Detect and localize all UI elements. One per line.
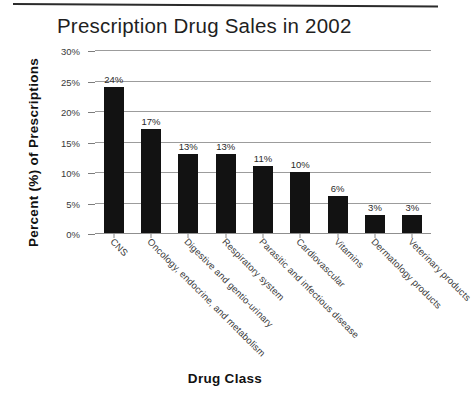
y-tick-label: 25% [61,76,80,87]
bar-group: 11% [244,50,281,233]
bar-value-label: 6% [331,183,345,194]
bar[interactable] [365,215,385,233]
bar-group: 17% [132,50,169,233]
bar-value-label: 3% [405,202,419,213]
y-tick-mark [88,112,95,113]
page-top-rule [13,3,438,8]
x-category-label: CNS [108,236,130,258]
chart-title: Prescription Drug Sales in 2002 [57,14,352,38]
bar-value-label: 3% [368,202,382,213]
bar-group: 3% [356,50,393,233]
bar[interactable] [104,87,124,233]
y-tick-mark [88,82,95,83]
bar-value-label: 17% [141,116,160,127]
y-tick-mark [88,143,95,144]
bar[interactable] [178,154,198,233]
bar-group: 6% [319,50,356,233]
y-tick-label: 10% [61,168,80,179]
bar-group: 13% [170,50,207,233]
x-category-label: Vitamins [332,236,366,270]
plot-area: 0%5%10%15%20%25%30% 24%17%13%13%11%10%6%… [95,50,431,233]
bar-group: 3% [394,50,431,233]
x-category-label: Respiratory system [220,236,287,303]
bar-value-label: 13% [179,141,198,152]
bar-series: 24%17%13%13%11%10%6%3%3% [95,50,431,233]
bar[interactable] [402,215,422,233]
y-tick-label: 15% [61,137,80,148]
x-category-label: Veterinary products [407,236,474,303]
bar[interactable] [328,196,348,233]
bar-value-label: 13% [216,141,235,152]
bar-value-label: 24% [104,74,123,85]
bar[interactable] [253,166,273,233]
bar-group: 10% [282,50,319,233]
bar-group: 24% [95,50,132,233]
x-axis-category-labels: CNSOncology, endocrine, and metabolismDi… [95,236,431,366]
y-tick-label: 5% [66,198,80,209]
bar[interactable] [216,154,236,233]
y-tick-mark [88,173,95,174]
y-tick-label: 0% [66,229,80,240]
x-category-label: Dermatology products [369,236,444,311]
x-axis-title: Drug Class [0,371,450,386]
y-tick-label: 20% [61,107,80,118]
bar-value-label: 10% [291,159,310,170]
bar-value-label: 11% [254,153,272,164]
y-tick-mark [88,234,95,235]
y-axis-title: Percent (%) of Prescriptions [26,28,41,278]
bar[interactable] [290,172,310,233]
bar-group: 13% [207,50,244,233]
y-tick-label: 30% [61,46,80,57]
y-tick-mark [88,204,95,205]
bar[interactable] [141,129,161,233]
y-tick-mark [88,51,95,52]
